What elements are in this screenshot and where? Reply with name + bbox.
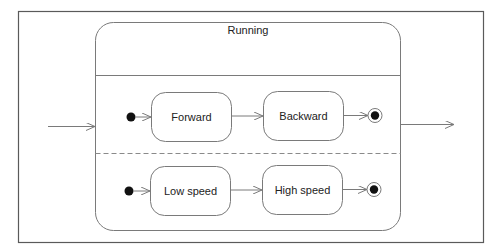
state-backward[interactable]: Backward xyxy=(264,92,344,141)
state-high-speed-label: High speed xyxy=(275,184,331,196)
final-state-icon xyxy=(368,109,382,123)
state-forward-label: Forward xyxy=(171,111,211,123)
initial-pseudostate-icon xyxy=(125,187,134,196)
state-low-speed-label: Low speed xyxy=(164,185,217,197)
state-diagram: Running Forward Backward Low speed xyxy=(0,0,501,250)
state-forward[interactable]: Forward xyxy=(152,93,232,142)
running-state-box xyxy=(96,23,401,231)
state-low-speed[interactable]: Low speed xyxy=(151,167,231,216)
initial-pseudostate-icon xyxy=(127,113,136,122)
state-backward-label: Backward xyxy=(279,110,327,122)
composite-state-running[interactable]: Running xyxy=(96,23,401,231)
final-state-icon xyxy=(367,183,381,197)
running-state-label: Running xyxy=(228,24,269,36)
state-high-speed[interactable]: High speed xyxy=(263,166,343,215)
